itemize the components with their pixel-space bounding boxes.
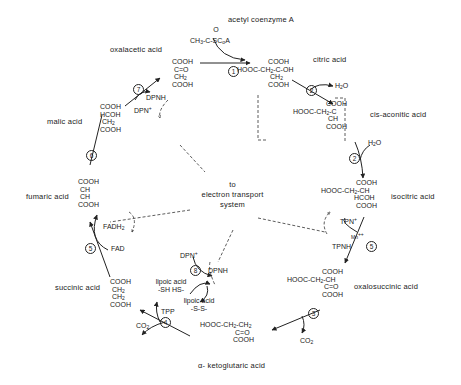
dpnh-7: DPNH (146, 94, 166, 102)
acetyl-coa-label: acetyl coenzyme A (228, 16, 294, 24)
acetyl-coa-oxygen: O (210, 26, 222, 34)
dpnh-8: DPNH (208, 267, 228, 275)
mn-ion: Mn++ (351, 234, 364, 242)
succinic-formula: COOH CH2 CH2COOH (110, 278, 131, 308)
co2-2: CO2 (136, 322, 149, 330)
malic-acid-label: malic acid (47, 118, 82, 126)
step-7-marker: 7 (133, 84, 144, 95)
oxalacetic-acid-label: oxalacetic acid (110, 46, 162, 54)
step-5a-marker: 5 (366, 241, 377, 252)
citric-acid-label: citric acid (313, 56, 346, 64)
step-2b-marker: 2 (349, 153, 360, 164)
dpn-plus-8: DPN+ (180, 252, 198, 260)
tpp: TPP (161, 308, 175, 316)
cis-aconitic-formula: COOHHOOC-CH2-C CH COOH (293, 100, 347, 130)
isocitric-acid-label: isocitric acid (391, 193, 435, 201)
step-1-marker: 1 (228, 66, 239, 77)
dpn-plus-7: DPN+ (134, 107, 152, 115)
fadh2: FADH2 (103, 223, 124, 231)
step-2a-marker: 2 (306, 85, 317, 96)
step-5b-marker: 5 (85, 243, 96, 254)
acetyl-coa-formula: CH3-C-SCoA (190, 37, 230, 45)
step-8-marker: 8 (190, 265, 201, 276)
oxalosuccinic-formula: COOHHOOC-CH2-CH C=O COOH (287, 268, 343, 298)
cis-aconitic-acid-label: cis-aconitic acid (370, 111, 426, 119)
step-4-marker: 4 (160, 317, 171, 328)
electron-transport-label: toelectron transportsystem (185, 180, 280, 210)
ketoglutaric-acid-label: α- ketoglutaric acid (198, 362, 265, 370)
h2o-2: H2O (368, 139, 381, 147)
ketoglutaric-formula: HOOC-CH2-CH2 C=O COOH (200, 321, 254, 344)
fumaric-acid-label: fumaric acid (26, 193, 69, 201)
fad: FAD (111, 245, 125, 253)
h2o-1: H2O (335, 82, 348, 90)
oxalacetic-formula: COOH C=O CH2COOH (172, 58, 193, 88)
malic-formula: COOHHCOH CH2COOH (100, 103, 121, 133)
step-6-marker: 6 (86, 150, 97, 161)
lipoic-acid-reduced: lipoic acid-SH HS- (151, 278, 191, 293)
fumaric-formula: COOH CH CHCOOH (78, 178, 99, 208)
oxalosuccinic-acid-label: oxalosuccinic acid (354, 283, 418, 291)
citric-formula: COOHHOOC-CH2-C-OH CH2 COOH (237, 58, 293, 88)
succinic-acid-label: succinic acid (55, 284, 100, 292)
lipoic-acid-oxidized: lipoic acid-S-S- (179, 297, 219, 312)
tpn-plus: TPN+ (340, 218, 357, 226)
isocitric-formula: COOHHOOC-CH2-CH HCOH COOH (321, 179, 377, 209)
co2-1: CO2 (300, 337, 313, 345)
step-3-marker: 3 (308, 308, 319, 319)
tpnh: TPNH (332, 243, 351, 251)
